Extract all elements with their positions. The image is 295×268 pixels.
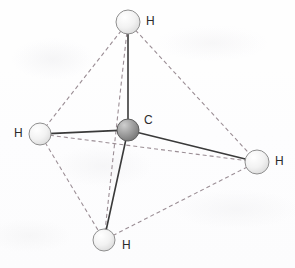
atom-label-hydrogen-left: H	[14, 127, 23, 139]
covalent-bonds-group	[49, 32, 247, 231]
bond-c-h-bottom	[106, 139, 126, 231]
atoms-group	[29, 10, 269, 251]
atom-sphere-hydrogen-left[interactable]	[29, 123, 51, 145]
edge-left-bottom	[45, 143, 99, 232]
atom-sphere-hydrogen-right[interactable]	[245, 150, 269, 174]
atom-label-hydrogen-top: H	[146, 15, 155, 27]
edge-left-right	[50, 135, 246, 160]
edge-top-left	[46, 31, 121, 126]
atom-label-hydrogen-bottom: H	[122, 239, 131, 251]
molecule-figure: CHHHH	[0, 0, 295, 268]
atom-sphere-carbon-center[interactable]	[117, 119, 139, 141]
atom-sphere-hydrogen-top[interactable]	[116, 10, 140, 34]
molecule-canvas	[0, 0, 295, 268]
atom-label-hydrogen-right: H	[275, 155, 284, 167]
bond-c-h-right	[137, 132, 248, 159]
bond-c-h-left	[49, 130, 119, 133]
edge-bottom-right	[113, 167, 247, 235]
atom-label-carbon-center: C	[144, 114, 153, 126]
atom-sphere-hydrogen-bottom[interactable]	[93, 229, 115, 251]
